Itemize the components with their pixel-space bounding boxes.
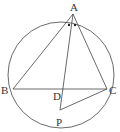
label-d: D bbox=[53, 90, 61, 102]
segment-ac bbox=[73, 14, 107, 89]
label-a: A bbox=[70, 1, 78, 13]
geometry-diagram: A B C D P bbox=[0, 0, 120, 132]
angle-mark-dot-left bbox=[68, 24, 70, 26]
label-p: P bbox=[56, 116, 62, 128]
label-b: B bbox=[1, 84, 8, 96]
label-c: C bbox=[109, 84, 116, 96]
segment-pc bbox=[60, 89, 107, 110]
angle-mark-dot-right bbox=[74, 24, 76, 26]
